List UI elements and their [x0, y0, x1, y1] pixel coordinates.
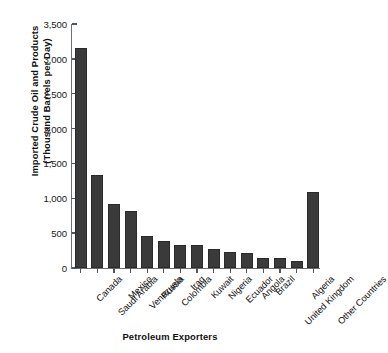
y-tick-label: 500 [51, 228, 67, 239]
bar [274, 258, 286, 268]
x-tick-label: Canada [94, 274, 124, 304]
x-tick-mark [213, 268, 214, 273]
bar [125, 211, 137, 268]
x-tick-mark [313, 268, 314, 273]
x-tick-mark [230, 268, 231, 273]
y-tick-label: 1,500 [43, 158, 67, 169]
bar [307, 192, 319, 268]
bar [241, 253, 253, 268]
y-axis-line [71, 24, 72, 268]
x-tick-mark [196, 268, 197, 273]
bar [75, 48, 87, 268]
x-tick-mark [279, 268, 280, 273]
y-tick-label: 3,000 [43, 53, 67, 64]
y-tick-label: 0 [62, 263, 67, 274]
x-axis-title: Petroleum Exporters [0, 331, 340, 342]
bar [191, 245, 203, 268]
bar [158, 241, 170, 268]
y-tick-label: 3,500 [43, 19, 67, 30]
x-tick-mark [147, 268, 148, 273]
bar [291, 261, 303, 268]
plot-area: 05001,0001,5002,0002,5003,0003,500 Canad… [71, 24, 320, 268]
x-tick-mark [113, 268, 114, 273]
y-tick-label: 1,000 [43, 193, 67, 204]
y-axis-title-line-1: Imported Crude Oil and Products [28, 26, 41, 177]
bar [141, 236, 153, 268]
x-tick-mark [80, 268, 81, 273]
x-tick-mark [263, 268, 264, 273]
y-tick-label: 2,500 [43, 88, 67, 99]
x-tick-mark [97, 268, 98, 273]
bar [108, 204, 120, 268]
x-tick-mark [296, 268, 297, 273]
y-axis-title: Imported Crude Oil and Products (Thousan… [26, 0, 56, 209]
x-tick-mark [130, 268, 131, 273]
bar [257, 258, 269, 268]
y-tick-mark [72, 23, 77, 24]
bar [91, 175, 103, 268]
x-tick-mark [246, 268, 247, 273]
y-tick-label: 2,000 [43, 123, 67, 134]
bar [224, 252, 236, 268]
x-tick-mark [180, 268, 181, 273]
bar [208, 249, 220, 268]
bar [174, 245, 186, 268]
x-tick-mark [163, 268, 164, 273]
